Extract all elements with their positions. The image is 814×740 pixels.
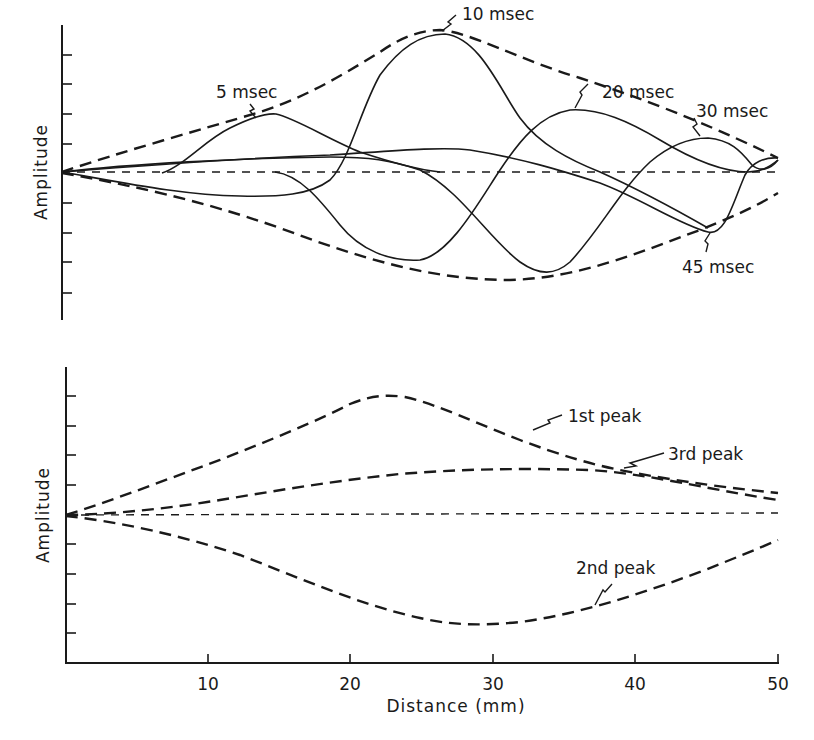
x-tick-label-30: 30 — [482, 674, 504, 694]
label-45msec: 45 msec — [682, 257, 754, 277]
x-tick-label-50: 50 — [767, 674, 789, 694]
curve-3rd-peak — [66, 469, 778, 515]
x-tick-label-20: 20 — [339, 674, 361, 694]
curve-20msec — [275, 110, 778, 260]
x-ticks — [208, 654, 778, 663]
label-30msec: 30 msec — [696, 101, 768, 121]
bottom-panel: 10 20 30 40 50 Distance (mm) Amplitude 1… — [33, 367, 789, 716]
x-tick-label-40: 40 — [624, 674, 646, 694]
label-10msec: 10 msec — [462, 4, 534, 24]
pointer-1st-peak — [533, 415, 562, 430]
bottom-baseline — [66, 513, 778, 515]
pointer-20msec — [575, 84, 588, 108]
pointer-3rd-peak — [624, 453, 664, 468]
label-2nd-peak: 2nd peak — [576, 558, 655, 578]
curve-2nd-peak — [66, 516, 778, 624]
figure: Amplitude 5 msec 10 msec 20 msec 30 msec… — [0, 0, 814, 740]
top-panel: Amplitude 5 msec 10 msec 20 msec 30 msec… — [31, 4, 778, 320]
curve-30msec — [62, 138, 778, 272]
x-tick-label-10: 10 — [197, 674, 219, 694]
pointer-45msec — [705, 233, 710, 252]
label-3rd-peak: 3rd peak — [668, 444, 743, 464]
curve-10msec — [62, 34, 708, 228]
label-5msec: 5 msec — [216, 82, 277, 102]
top-lower-envelope — [62, 173, 778, 280]
x-axis-label: Distance (mm) — [386, 696, 525, 716]
label-1st-peak: 1st peak — [568, 406, 641, 426]
bottom-y-axis-label: Amplitude — [33, 467, 53, 563]
label-20msec: 20 msec — [602, 82, 674, 102]
pointer-10msec — [442, 15, 456, 31]
top-y-axis-label: Amplitude — [31, 124, 51, 220]
